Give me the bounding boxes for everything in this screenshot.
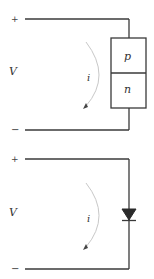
n-region-label: n bbox=[124, 83, 131, 96]
diode-icon bbox=[122, 209, 136, 220]
current-label: i bbox=[87, 213, 90, 224]
diode-symbol-circuit: + − V i bbox=[9, 154, 136, 274]
plus-terminal-label: + bbox=[11, 154, 19, 164]
circuit-diagrams: + p n − V i + − V i bbox=[0, 0, 154, 279]
voltage-label: V bbox=[9, 65, 18, 78]
p-region-label: p bbox=[124, 50, 131, 63]
plus-terminal-label: + bbox=[11, 14, 19, 24]
minus-terminal-label: − bbox=[11, 263, 19, 274]
voltage-label: V bbox=[9, 206, 18, 219]
pn-junction-circuit: + p n − V i bbox=[9, 14, 146, 135]
minus-terminal-label: − bbox=[11, 124, 19, 135]
current-label: i bbox=[87, 72, 90, 83]
